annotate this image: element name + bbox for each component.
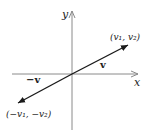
vector-diagram: y x v −v (v₁, v₂) (−v₁, −v₂) [0, 0, 152, 139]
neg-v-endpoint-label: (−v₁, −v₂) [6, 109, 52, 119]
y-axis-label: y [61, 8, 69, 21]
vector-v-label: v [99, 59, 107, 70]
x-axis-label: x [134, 76, 141, 89]
vector-neg-v-label: −v [26, 74, 41, 85]
v-endpoint-label: (v₁, v₂) [110, 32, 141, 42]
